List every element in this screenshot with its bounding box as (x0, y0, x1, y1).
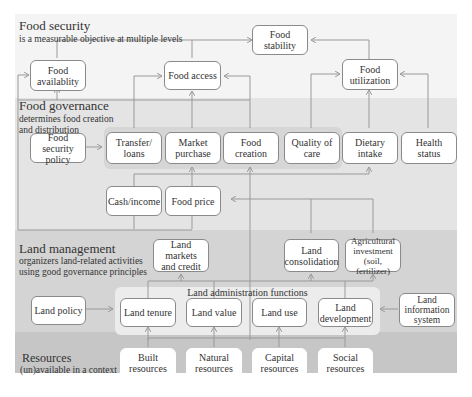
box-transfer-loans[interactable]: Transfer/ loans (106, 132, 162, 164)
resources-title: Resources (22, 351, 71, 365)
food-security-subtitle: is a measurable objective at multiple le… (19, 34, 183, 45)
land-management-title: Land management (19, 242, 115, 256)
box-food-access[interactable]: Food access (164, 61, 221, 90)
box-land-value[interactable]: Land value (186, 298, 242, 327)
resources-subtitle: (un)available in a context (20, 365, 117, 376)
land-management-subtitle: organizers land-related activities using… (19, 256, 147, 278)
box-capital-resources[interactable]: Capital resources (252, 348, 307, 378)
box-food-creation[interactable]: Food creation (223, 132, 279, 164)
box-market-purchase[interactable]: Market purchase (165, 132, 221, 164)
link-care-utilization (311, 74, 340, 128)
box-land-markets-credit[interactable]: Land markets and credit (153, 239, 209, 272)
link-agri-price (311, 199, 373, 233)
link-utilization-stability (311, 40, 369, 60)
box-quality-of-care[interactable]: Quality of care (284, 132, 340, 164)
box-land-information-system[interactable]: Land information system (399, 293, 455, 327)
food-security-title: Food security (19, 19, 90, 33)
link-cash-intake (134, 167, 369, 187)
box-land-policy[interactable]: Land policy (31, 296, 86, 325)
food-governance-title: Food governance (19, 99, 109, 113)
box-food-availability[interactable]: Food availablity (30, 60, 86, 91)
box-natural-resources[interactable]: Natural resources (186, 348, 242, 378)
link-transfer-access (134, 76, 162, 128)
box-land-development[interactable]: Land development (318, 298, 373, 327)
box-land-consolidation[interactable]: Land consolidation (284, 239, 339, 272)
box-food-stability[interactable]: Food stability (252, 25, 308, 55)
box-social-resources[interactable]: Social resources (318, 348, 373, 378)
box-land-use[interactable]: Land use (252, 298, 307, 327)
box-food-price[interactable]: Food price (165, 186, 221, 216)
box-food-security-policy[interactable]: Food security policy (30, 133, 86, 163)
box-dietary-intake[interactable]: Dietary intake (342, 132, 398, 164)
box-agricultural-investment[interactable]: Agricultural investment (soil, fertilize… (345, 239, 401, 272)
link-creation-access (224, 76, 250, 128)
box-built-resources[interactable]: Built resources (120, 348, 176, 378)
link-health-utilization (400, 74, 428, 128)
land-administration-label: Land administration functions (115, 287, 380, 298)
box-cash-income[interactable]: Cash/income (106, 186, 162, 216)
link-consolidation-price (231, 199, 311, 233)
box-land-tenure[interactable]: Land tenure (120, 298, 176, 327)
box-health-status[interactable]: Health status (401, 132, 457, 164)
link-resources-admin (148, 338, 345, 340)
box-food-utilization[interactable]: Food utilization (342, 59, 398, 90)
